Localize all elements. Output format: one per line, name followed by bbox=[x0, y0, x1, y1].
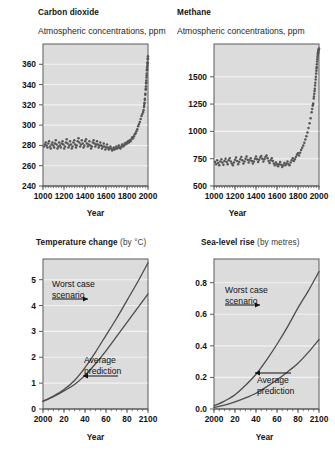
methane-plot: 5007501000125015001000120014001600180020… bbox=[167, 40, 335, 205]
svg-text:20: 20 bbox=[59, 414, 69, 424]
panel-temperature-change: Temperature change (by °C) 0123452000204… bbox=[0, 225, 167, 450]
figure-sheet: Carbon dioxide Atmospheric concentration… bbox=[0, 0, 335, 450]
svg-text:1800: 1800 bbox=[289, 191, 308, 201]
temperature-title-light: (by °C) bbox=[118, 238, 147, 247]
svg-text:2000: 2000 bbox=[139, 191, 158, 201]
co2-xaxis-title: Year bbox=[43, 208, 148, 218]
svg-text:1500: 1500 bbox=[188, 72, 207, 82]
svg-text:60: 60 bbox=[101, 414, 111, 424]
sealevel-plot: 0.00.20.40.60.82000204060802100Worst cas… bbox=[167, 253, 335, 428]
co2-plot: 2402602803003203403601000120014001600180… bbox=[0, 40, 167, 205]
svg-text:260: 260 bbox=[22, 161, 36, 171]
svg-text:1: 1 bbox=[31, 378, 36, 388]
sealevel-panel-title: Sea-level rise (by metres) bbox=[201, 238, 300, 247]
sealevel-title-bold: Sea-level rise bbox=[201, 238, 255, 247]
sealevel-xaxis-title: Year bbox=[212, 432, 317, 442]
svg-text:0.4: 0.4 bbox=[195, 341, 207, 351]
svg-text:Worst case: Worst case bbox=[225, 285, 268, 295]
svg-text:60: 60 bbox=[272, 414, 282, 424]
methane-panel-subtitle: Atmospheric concentrations, ppm bbox=[177, 26, 305, 36]
svg-text:Average: Average bbox=[257, 375, 289, 385]
temperature-panel-title: Temperature change (by °C) bbox=[36, 238, 146, 247]
svg-text:340: 340 bbox=[22, 80, 36, 90]
methane-panel-title: Methane bbox=[177, 8, 211, 17]
svg-text:0: 0 bbox=[31, 404, 36, 414]
svg-text:3: 3 bbox=[31, 326, 36, 336]
svg-text:0.8: 0.8 bbox=[195, 278, 207, 288]
svg-text:Worst case: Worst case bbox=[52, 279, 95, 289]
svg-text:0.2: 0.2 bbox=[195, 372, 207, 382]
svg-text:2000: 2000 bbox=[310, 191, 329, 201]
svg-text:240: 240 bbox=[22, 181, 36, 191]
svg-text:40: 40 bbox=[251, 414, 261, 424]
co2-plot-svg: 2402602803003203403601000120014001600180… bbox=[0, 40, 167, 205]
svg-text:500: 500 bbox=[193, 181, 207, 191]
temperature-plot: 0123452000204060802100Worst casescenario… bbox=[0, 253, 167, 428]
co2-panel-title: Carbon dioxide bbox=[38, 8, 99, 17]
svg-text:1000: 1000 bbox=[188, 126, 207, 136]
svg-text:5: 5 bbox=[31, 275, 36, 285]
co2-panel-subtitle: Atmospheric concentrations, ppm bbox=[38, 26, 166, 36]
temperature-title-bold: Temperature change bbox=[36, 238, 118, 247]
svg-text:20: 20 bbox=[230, 414, 240, 424]
svg-text:1200: 1200 bbox=[226, 191, 245, 201]
svg-text:80: 80 bbox=[122, 414, 132, 424]
svg-text:0.0: 0.0 bbox=[195, 404, 207, 414]
panel-methane: Methane Atmospheric concentrations, ppm … bbox=[167, 0, 335, 225]
svg-text:1000: 1000 bbox=[205, 191, 224, 201]
svg-text:prediction: prediction bbox=[84, 366, 121, 376]
svg-text:0.6: 0.6 bbox=[195, 309, 207, 319]
svg-text:320: 320 bbox=[22, 100, 36, 110]
methane-xaxis-title: Year bbox=[185, 208, 290, 218]
svg-text:2: 2 bbox=[31, 352, 36, 362]
panel-sea-level-rise: Sea-level rise (by metres) 0.00.20.40.60… bbox=[167, 225, 335, 450]
svg-text:2100: 2100 bbox=[139, 414, 158, 424]
svg-text:1400: 1400 bbox=[76, 191, 95, 201]
svg-text:1800: 1800 bbox=[118, 191, 137, 201]
svg-text:prediction: prediction bbox=[257, 386, 294, 396]
svg-text:1600: 1600 bbox=[97, 191, 116, 201]
svg-text:300: 300 bbox=[22, 120, 36, 130]
svg-text:2000: 2000 bbox=[34, 414, 53, 424]
svg-text:2000: 2000 bbox=[205, 414, 224, 424]
svg-text:750: 750 bbox=[193, 154, 207, 164]
svg-text:1600: 1600 bbox=[268, 191, 287, 201]
svg-text:2100: 2100 bbox=[310, 414, 329, 424]
svg-text:1400: 1400 bbox=[247, 191, 266, 201]
svg-text:1200: 1200 bbox=[55, 191, 74, 201]
svg-text:Average: Average bbox=[84, 355, 116, 365]
methane-plot-svg: 5007501000125015001000120014001600180020… bbox=[167, 40, 335, 205]
svg-text:280: 280 bbox=[22, 140, 36, 150]
temperature-plot-svg: 0123452000204060802100Worst casescenario… bbox=[0, 253, 167, 428]
temperature-xaxis-title: Year bbox=[43, 432, 148, 442]
panel-carbon-dioxide: Carbon dioxide Atmospheric concentration… bbox=[0, 0, 167, 225]
svg-text:40: 40 bbox=[80, 414, 90, 424]
svg-text:4: 4 bbox=[31, 301, 36, 311]
sealevel-title-light: (by metres) bbox=[255, 238, 300, 247]
sealevel-plot-svg: 0.00.20.40.60.82000204060802100Worst cas… bbox=[167, 253, 335, 428]
svg-text:1250: 1250 bbox=[188, 99, 207, 109]
svg-text:1000: 1000 bbox=[34, 191, 53, 201]
svg-text:360: 360 bbox=[22, 59, 36, 69]
svg-text:80: 80 bbox=[293, 414, 303, 424]
